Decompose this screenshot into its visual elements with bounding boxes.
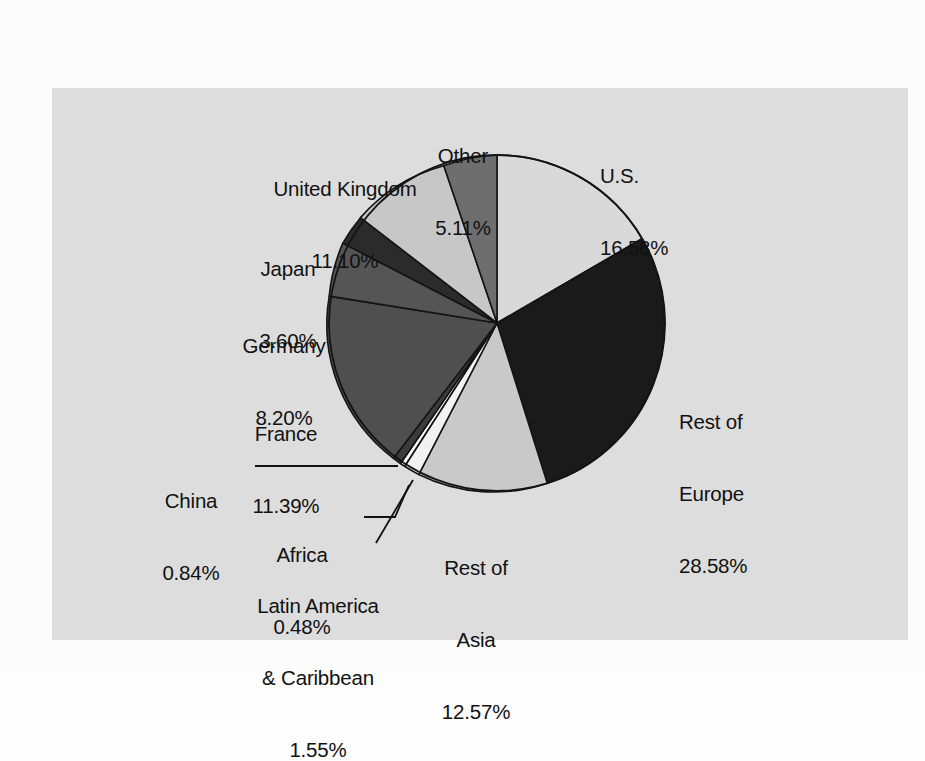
label-other: Other 5.11% [399,96,527,288]
label-rest-of-europe-percent: 28.58% [679,554,747,578]
label-rest-of-europe-name-line2: Europe [679,482,747,506]
label-rest-of-europe: Rest of Europe 28.58% [679,362,747,626]
label-japan-percent: 3.60% [222,329,354,353]
label-france-percent: 11.39% [218,494,354,518]
label-rest-of-europe-name-line1: Rest of [679,410,747,434]
label-other-percent: 5.11% [399,216,527,240]
label-us-percent: 16.58% [600,236,668,260]
label-africa-percent: 0.48% [243,615,361,639]
label-us: U.S. 16.58% [600,116,668,308]
label-us-name: U.S. [600,164,668,188]
label-latin-america-percent: 1.55% [198,738,438,761]
label-germany-percent: 8.20% [208,406,360,430]
label-other-name: Other [399,144,527,168]
